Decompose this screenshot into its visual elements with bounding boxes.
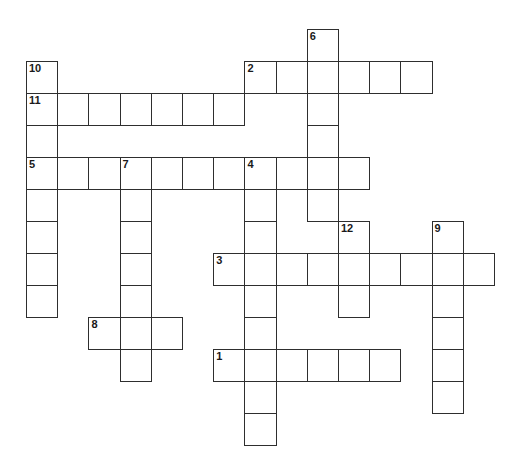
crossword-cell[interactable] <box>369 61 401 94</box>
clue-number: 9 <box>435 223 441 234</box>
crossword-cell[interactable] <box>120 285 152 318</box>
clue-number: 6 <box>310 31 316 42</box>
crossword-cell[interactable] <box>244 413 276 446</box>
crossword-cell[interactable]: 3 <box>213 253 245 286</box>
crossword-cell[interactable] <box>400 253 432 286</box>
crossword-cell[interactable] <box>400 61 432 94</box>
crossword-cell[interactable] <box>182 93 214 126</box>
clue-number: 3 <box>216 255 222 266</box>
crossword-cell[interactable] <box>432 253 464 286</box>
crossword-cell[interactable] <box>307 189 339 222</box>
crossword-cell[interactable] <box>276 61 308 94</box>
crossword-cell[interactable]: 9 <box>432 221 464 254</box>
crossword-cell[interactable] <box>338 349 370 382</box>
clue-number: 7 <box>123 159 129 170</box>
crossword-cell[interactable]: 11 <box>26 93 58 126</box>
crossword-cell[interactable] <box>369 349 401 382</box>
crossword-cell[interactable] <box>276 157 308 190</box>
crossword-cell[interactable] <box>338 61 370 94</box>
crossword-cell[interactable] <box>276 349 308 382</box>
crossword-cell[interactable] <box>120 189 152 222</box>
clue-number: 5 <box>29 159 35 170</box>
clue-number: 10 <box>29 63 41 74</box>
crossword-cell[interactable]: 5 <box>26 157 58 190</box>
crossword-cell[interactable] <box>307 349 339 382</box>
crossword-cell[interactable] <box>26 125 58 158</box>
crossword-cell[interactable]: 7 <box>120 157 152 190</box>
clue-number: 4 <box>247 159 253 170</box>
crossword-cell[interactable] <box>26 253 58 286</box>
clue-number: 2 <box>247 63 253 74</box>
crossword-cell[interactable]: 8 <box>88 317 120 350</box>
crossword-cell[interactable] <box>57 157 89 190</box>
crossword-cell[interactable] <box>307 157 339 190</box>
crossword-cell[interactable] <box>338 285 370 318</box>
crossword-cell[interactable] <box>57 93 89 126</box>
crossword-cell[interactable] <box>307 253 339 286</box>
crossword-cell[interactable] <box>120 253 152 286</box>
crossword-cell[interactable] <box>182 157 214 190</box>
crossword-cell[interactable] <box>120 349 152 382</box>
crossword-cell[interactable] <box>338 253 370 286</box>
crossword-cell[interactable] <box>244 381 276 414</box>
crossword-cell[interactable] <box>432 317 464 350</box>
crossword-cell[interactable] <box>26 285 58 318</box>
crossword-cell[interactable]: 1 <box>213 349 245 382</box>
crossword-cell[interactable]: 12 <box>338 221 370 254</box>
crossword-cell[interactable] <box>26 189 58 222</box>
crossword-cell[interactable] <box>244 221 276 254</box>
crossword-cell[interactable] <box>432 285 464 318</box>
crossword-cell[interactable]: 4 <box>244 157 276 190</box>
crossword-cell[interactable] <box>432 381 464 414</box>
crossword-cell[interactable] <box>369 253 401 286</box>
crossword-cell[interactable] <box>244 317 276 350</box>
crossword-cell[interactable] <box>463 253 495 286</box>
crossword-cell[interactable] <box>213 157 245 190</box>
crossword-grid: 123457689101112 <box>0 0 522 474</box>
crossword-cell[interactable]: 2 <box>244 61 276 94</box>
crossword-cell[interactable] <box>307 125 339 158</box>
crossword-cell[interactable] <box>244 285 276 318</box>
crossword-cell[interactable] <box>307 61 339 94</box>
crossword-cell[interactable] <box>151 317 183 350</box>
crossword-cell[interactable] <box>120 93 152 126</box>
crossword-cell[interactable] <box>244 349 276 382</box>
crossword-cell[interactable] <box>276 253 308 286</box>
crossword-cell[interactable] <box>307 93 339 126</box>
crossword-cell[interactable] <box>432 349 464 382</box>
clue-number: 8 <box>91 319 97 330</box>
clue-number: 11 <box>29 95 41 106</box>
crossword-cell[interactable] <box>120 221 152 254</box>
crossword-cell[interactable] <box>151 157 183 190</box>
crossword-cell[interactable] <box>338 157 370 190</box>
crossword-cell[interactable] <box>120 317 152 350</box>
crossword-cell[interactable] <box>26 221 58 254</box>
crossword-cell[interactable]: 6 <box>307 29 339 62</box>
clue-number: 12 <box>341 223 353 234</box>
crossword-cell[interactable] <box>213 93 245 126</box>
crossword-cell[interactable] <box>244 189 276 222</box>
crossword-cell[interactable] <box>244 253 276 286</box>
crossword-cell[interactable] <box>88 93 120 126</box>
clue-number: 1 <box>216 351 222 362</box>
crossword-cell[interactable]: 10 <box>26 61 58 94</box>
crossword-cell[interactable] <box>88 157 120 190</box>
crossword-cell[interactable] <box>151 93 183 126</box>
